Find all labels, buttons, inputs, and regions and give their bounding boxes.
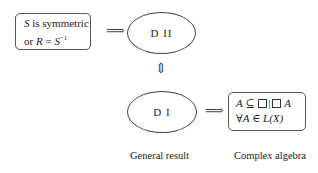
box-operator-icon [272,99,281,108]
node-d2-label: D II [150,27,172,39]
var-a-end: A [282,97,291,109]
algebra-line-1: A ⊆ | A [236,96,305,111]
inverse-exponent: −1 [60,34,67,42]
algebra-line-2: ∀A ∈ L(X) [236,111,305,126]
node-d1-label: D I [153,106,170,118]
caption-general-result: General result [130,150,189,161]
separator: | [268,97,270,109]
condition-box: S is symmetric or R = S−1 [15,13,91,50]
var-r: R [36,35,43,47]
equivalence-arrow: ⇕ [155,62,167,76]
condition-text: is symmetric [30,17,89,29]
node-d1: D I [127,91,197,133]
node-d2: D II [127,12,196,54]
algebra-box: A ⊆ | A ∀A ∈ L(X) [228,92,306,131]
implies-arrow-1: ⟹ [106,24,125,37]
forall: ∀ [236,112,243,124]
implies-arrow-2: ⟹ [205,104,224,117]
lattice-lx: L(X) [263,112,283,124]
equals: = [43,35,55,47]
or-text: or [24,35,36,47]
element-of: ∈ [249,112,263,124]
condition-line-2: or R = S−1 [24,31,90,49]
caption-complex-algebra: Complex algebra [234,150,306,161]
condition-line-1: S is symmetric [24,16,90,31]
subseteq: ⊆ [243,97,258,109]
box-operator-icon [258,99,267,108]
var-a: A [236,97,243,109]
